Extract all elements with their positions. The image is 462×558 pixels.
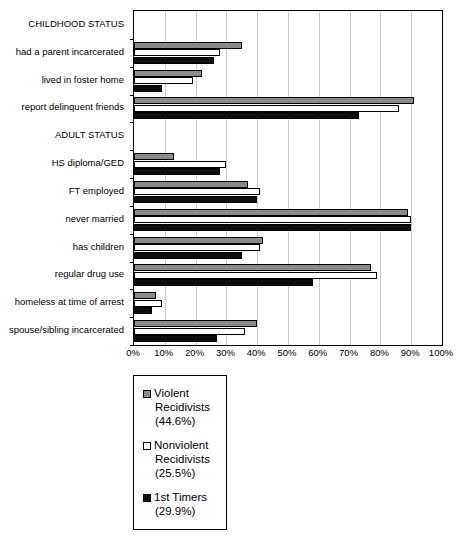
y-axis-label: has children (0, 242, 124, 252)
legend-label-line: Recidivists (143, 400, 225, 414)
legend-percent: (29.9%) (143, 504, 225, 518)
y-axis-label: homeless at time of arrest (0, 297, 124, 307)
bar-nonviolent (134, 244, 260, 251)
bar-nonviolent (134, 49, 220, 56)
bar-violent (134, 292, 156, 299)
bar-timers (134, 57, 214, 64)
y-axis-label: lived in foster home (0, 75, 124, 85)
x-axis-tick-label: 100% (421, 347, 461, 358)
bar-nonviolent (134, 77, 193, 84)
bar-chart: CHILDHOOD STATUShad a parent incarcerate… (0, 0, 462, 558)
bar-nonviolent (134, 300, 162, 307)
bar-violent (134, 237, 263, 244)
bar-nonviolent (134, 216, 411, 223)
legend-label-line: Violent (143, 386, 225, 400)
y-axis-label: HS diploma/GED (0, 158, 124, 168)
legend-entry: 1st Timers(29.9%) (143, 490, 225, 518)
legend-swatch-violent (143, 390, 151, 398)
y-axis-label: CHILDHOOD STATUS (0, 19, 124, 29)
bar-timers (134, 85, 162, 92)
bar-timers (134, 252, 242, 259)
legend-percent: (25.5%) (143, 466, 225, 480)
bar-violent (134, 42, 242, 49)
y-axis-label: spouse/sibling incarcerated (0, 325, 124, 335)
bar-nonviolent (134, 105, 399, 112)
bar-violent (134, 209, 408, 216)
bar-timers (134, 335, 217, 342)
y-axis-label: never married (0, 214, 124, 224)
legend-label-line: 1st Timers (143, 490, 225, 504)
y-axis-tick (130, 345, 134, 346)
legend-swatch-timers (143, 494, 151, 502)
y-axis-label: FT employed (0, 186, 124, 196)
bar-violent (134, 181, 248, 188)
legend-label-line: Recidivists (143, 452, 225, 466)
y-axis-label: ADULT STATUS (0, 130, 124, 140)
plot-area (133, 10, 443, 346)
bar-timers (134, 196, 257, 203)
y-axis-label: report delinquent friends (0, 102, 124, 112)
bar-nonviolent (134, 272, 377, 279)
bar-violent (134, 153, 174, 160)
chart-legend: ViolentRecidivists(44.6%)NonviolentRecid… (133, 375, 227, 530)
y-axis-category-labels: CHILDHOOD STATUShad a parent incarcerate… (0, 10, 128, 344)
y-axis-label: regular drug use (0, 269, 124, 279)
bar-violent (134, 264, 371, 271)
bar-violent (134, 320, 257, 327)
bar-timers (134, 307, 152, 314)
bar-nonviolent (134, 328, 245, 335)
legend-label-line: Nonviolent (143, 438, 225, 452)
legend-percent: (44.6%) (143, 414, 225, 428)
bar-violent (134, 97, 414, 104)
legend-entry: NonviolentRecidivists(25.5%) (143, 438, 225, 480)
y-axis-label: had a parent incarcerated (0, 47, 124, 57)
bar-nonviolent (134, 161, 226, 168)
legend-entry: ViolentRecidivists(44.6%) (143, 386, 225, 428)
bar-series-container (134, 11, 442, 345)
bar-timers (134, 112, 359, 119)
x-axis-tick-labels: 0%10%20%30%40%50%60%70%80%90%100% (133, 347, 441, 361)
bar-nonviolent (134, 188, 260, 195)
bar-timers (134, 279, 313, 286)
bar-violent (134, 70, 202, 77)
bar-timers (134, 168, 220, 175)
legend-swatch-nonviolent (143, 442, 151, 450)
bar-timers (134, 224, 411, 231)
